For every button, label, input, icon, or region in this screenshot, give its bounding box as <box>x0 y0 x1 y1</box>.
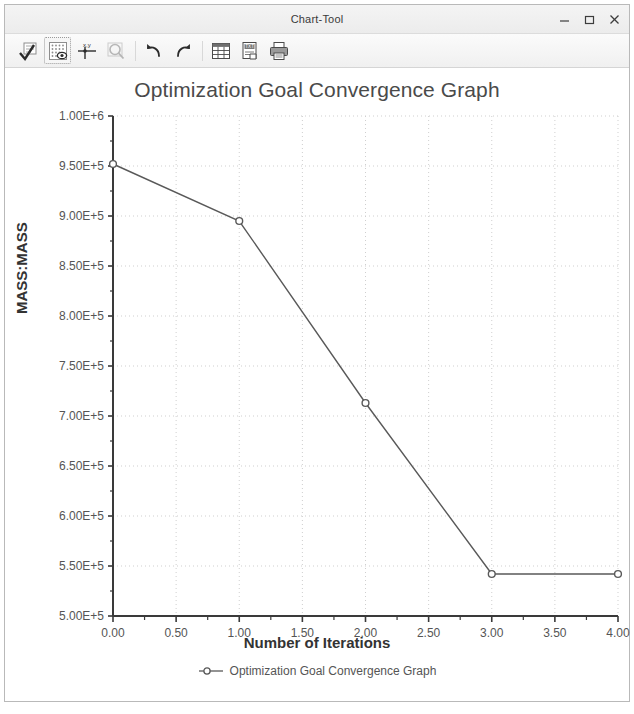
svg-text:7.50E+5: 7.50E+5 <box>59 359 104 373</box>
series-data-point[interactable] <box>488 571 495 578</box>
svg-text:3.00: 3.00 <box>480 626 504 640</box>
svg-text:1.00E+6: 1.00E+6 <box>59 109 104 123</box>
toolbar: x,y <box>5 34 629 68</box>
undo-icon[interactable] <box>140 37 167 64</box>
print-icon[interactable] <box>265 37 292 64</box>
svg-text:1.50: 1.50 <box>291 626 315 640</box>
minimize-button[interactable] <box>558 13 571 26</box>
svg-text:4.00: 4.00 <box>606 626 630 640</box>
grid-point-icon[interactable] <box>44 37 71 64</box>
svg-text:6.00E+5: 6.00E+5 <box>59 509 104 523</box>
toolbar-separator <box>202 41 203 61</box>
series-data-point[interactable] <box>236 218 243 225</box>
series-data-point[interactable] <box>362 400 369 407</box>
svg-text:8.50E+5: 8.50E+5 <box>59 259 104 273</box>
svg-text:0.50: 0.50 <box>164 626 188 640</box>
svg-text:7.00E+5: 7.00E+5 <box>59 409 104 423</box>
xy-axis-icon[interactable]: x,y <box>73 37 100 64</box>
svg-text:2.50: 2.50 <box>417 626 441 640</box>
svg-text:1.00: 1.00 <box>228 626 252 640</box>
close-button[interactable] <box>608 13 621 26</box>
svg-text:8.00E+5: 8.00E+5 <box>59 309 104 323</box>
svg-text:3.50: 3.50 <box>543 626 567 640</box>
chart-legend: Optimization Goal Convergence Graph <box>5 664 629 678</box>
text-export-icon[interactable]: TXT <box>236 37 263 64</box>
svg-text:6.50E+5: 6.50E+5 <box>59 459 104 473</box>
toolbar-separator <box>135 41 136 61</box>
maximize-button[interactable] <box>583 13 596 26</box>
zoom-icon[interactable] <box>102 37 129 64</box>
redo-icon[interactable] <box>169 37 196 64</box>
svg-text:9.50E+5: 9.50E+5 <box>59 159 104 173</box>
chart-area: Optimization Goal Convergence Graph MASS… <box>5 68 629 701</box>
window-title: Chart-Tool <box>5 13 629 25</box>
svg-text:9.00E+5: 9.00E+5 <box>59 209 104 223</box>
title-bar: Chart-Tool <box>5 5 629 34</box>
table-export-icon[interactable] <box>207 37 234 64</box>
svg-text:x,y: x,y <box>83 42 91 48</box>
svg-text:0.00: 0.00 <box>101 626 125 640</box>
chart-tool-window: Chart-Tool <box>4 4 630 702</box>
legend-marker-icon <box>198 665 224 677</box>
svg-text:5.50E+5: 5.50E+5 <box>59 559 104 573</box>
series-data-point[interactable] <box>110 161 117 168</box>
window-controls <box>558 5 621 33</box>
series-data-point[interactable] <box>615 571 622 578</box>
plot-canvas[interactable]: 5.00E+55.50E+56.00E+56.50E+57.00E+57.50E… <box>5 68 631 668</box>
svg-text:5.00E+5: 5.00E+5 <box>59 609 104 623</box>
apply-check-icon[interactable] <box>15 37 42 64</box>
svg-text:TXT: TXT <box>245 44 254 49</box>
svg-text:2.00: 2.00 <box>354 626 378 640</box>
legend-series-label: Optimization Goal Convergence Graph <box>230 664 437 678</box>
